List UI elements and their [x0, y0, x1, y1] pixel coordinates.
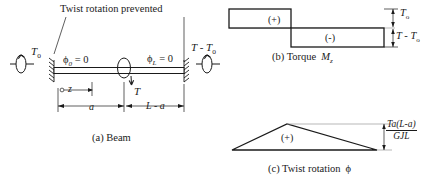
z-coordinate-label: z	[68, 84, 72, 94]
right-fixed-support	[184, 58, 189, 82]
right-torque-symbol	[196, 55, 220, 73]
left-fixed-support	[49, 58, 54, 82]
left-torque-label: To	[31, 46, 41, 60]
twist-rotation-triangle	[232, 124, 377, 150]
beam-shaft	[54, 68, 184, 74]
caption-panel-b: (b) TorqueMz	[272, 52, 333, 65]
phi-L-label: ϕL = 0	[147, 54, 173, 67]
torque-negative-sign: (-)	[325, 33, 335, 43]
caption-panel-a: (a) Beam	[92, 133, 131, 144]
figure-canvas	[0, 0, 427, 184]
twist-prevented-note: Twist rotation prevented	[60, 4, 163, 15]
phi-zero-label: ϕ0 = 0	[63, 55, 89, 68]
right-torque-label: T - To	[191, 42, 216, 56]
applied-torque-label: T	[134, 86, 140, 97]
torque-negative-block	[291, 28, 384, 47]
twist-positive-sign: (+)	[281, 133, 293, 143]
twist-peak-denominator: GJL	[386, 131, 417, 142]
dimension-L-minus-a-label: L - a	[146, 101, 165, 111]
twist-peak-value: Ta(L-a) GJL	[386, 119, 417, 141]
caption-panel-c: (c) Twist rotationϕ	[268, 164, 351, 175]
torque-dim-T-minus-To-label: T - To	[396, 31, 420, 44]
torque-dim-To-label: To	[400, 8, 409, 21]
twist-peak-numerator: Ta(L-a)	[386, 119, 417, 131]
dimension-a-label: a	[89, 102, 94, 112]
torque-positive-block	[229, 9, 291, 28]
z-dimension	[60, 82, 93, 96]
torque-positive-sign: (+)	[268, 15, 280, 25]
torque-dim-To	[384, 9, 398, 27]
